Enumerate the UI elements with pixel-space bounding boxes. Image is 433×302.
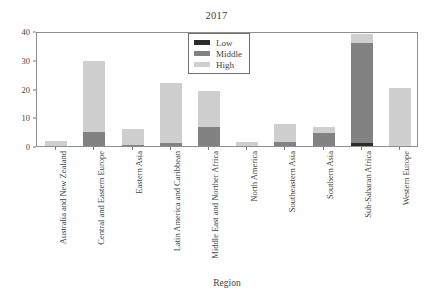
- x-axis-tick-label: North America: [250, 151, 259, 202]
- bar-stack: [83, 61, 105, 146]
- x-axis-tick-label: Eastern Asia: [135, 151, 144, 194]
- y-axis: 010203040: [0, 32, 36, 147]
- bar-segment-low: [351, 143, 373, 146]
- y-axis-tick-label: 10: [22, 113, 31, 123]
- bar-segment-middle: [122, 145, 144, 146]
- x-axis-labels: Australia and New ZealandCentral and Eas…: [36, 151, 418, 269]
- x-axis-tick-mark: [93, 147, 94, 150]
- bar-segment-high: [83, 61, 105, 131]
- legend-label: Middle: [216, 49, 242, 59]
- bar-segment-middle: [274, 142, 296, 146]
- y-axis-tick-label: 40: [22, 27, 31, 37]
- bar-segment-middle: [160, 143, 182, 146]
- x-axis-tick-mark: [170, 147, 171, 150]
- chart-title: 2017: [0, 10, 433, 21]
- legend-label: High: [216, 60, 234, 70]
- bar-segment-high: [351, 34, 373, 43]
- chart-legend: LowMiddleHigh: [188, 33, 250, 74]
- bar-segment-high: [389, 88, 411, 146]
- x-axis-title: Region: [36, 278, 418, 288]
- x-axis-tick-mark: [284, 147, 285, 150]
- legend-swatch-icon: [194, 51, 210, 56]
- bar-stack: [351, 34, 373, 146]
- x-axis-tick-label: Australia and New Zealand: [59, 151, 68, 244]
- bar-segment-middle: [351, 43, 373, 144]
- x-axis-tick-mark: [208, 147, 209, 150]
- bar-stack: [313, 127, 335, 146]
- y-axis-tick-label: 0: [26, 142, 30, 152]
- legend-item-high[interactable]: High: [194, 59, 242, 70]
- x-axis-tick-label: Sub-Saharan Africa: [364, 151, 373, 218]
- x-axis-tick-label: Southeastern Asia: [288, 151, 297, 212]
- x-axis-tick-mark: [55, 147, 56, 150]
- legend-item-middle[interactable]: Middle: [194, 48, 242, 59]
- x-axis-tick-mark: [132, 147, 133, 150]
- x-axis-tick-mark: [246, 147, 247, 150]
- legend-item-low[interactable]: Low: [194, 37, 242, 48]
- x-axis-tick-label: Latin America and Caribbean: [173, 151, 182, 251]
- bar-stack: [198, 91, 220, 146]
- x-axis-tick-mark: [361, 147, 362, 150]
- legend-swatch-icon: [194, 62, 210, 67]
- x-axis-tick-label: Western Europe: [402, 151, 411, 205]
- legend-label: Low: [216, 38, 233, 48]
- bar-stack: [236, 142, 258, 146]
- bar-segment-high: [45, 141, 67, 146]
- x-axis-tick-label: Middle East and Norther Africa: [211, 151, 220, 259]
- bar-segment-high: [160, 83, 182, 143]
- chart-figure: 2017 010203040 Australia and New Zealand…: [0, 0, 433, 302]
- bar-stack: [274, 124, 296, 146]
- bar-segment-middle: [313, 133, 335, 146]
- x-axis-tick-label: Central and Eastern Europe: [97, 151, 106, 245]
- bar-stack: [160, 83, 182, 146]
- x-axis-tick-mark: [323, 147, 324, 150]
- bar-stack: [122, 129, 144, 146]
- bar-segment-high: [122, 129, 144, 145]
- x-axis-tick-label: Southern Asia: [326, 151, 335, 199]
- bar-segment-high: [198, 91, 220, 127]
- legend-swatch-icon: [194, 40, 210, 45]
- bar-segment-high: [274, 124, 296, 142]
- x-axis-tick-mark: [399, 147, 400, 150]
- y-axis-tick-label: 20: [22, 85, 31, 95]
- bar-stack: [45, 141, 67, 146]
- bar-stack: [389, 88, 411, 146]
- bar-segment-high: [236, 142, 258, 146]
- bar-segment-middle: [198, 127, 220, 146]
- y-axis-tick-label: 30: [22, 56, 31, 66]
- bar-segment-middle: [83, 132, 105, 146]
